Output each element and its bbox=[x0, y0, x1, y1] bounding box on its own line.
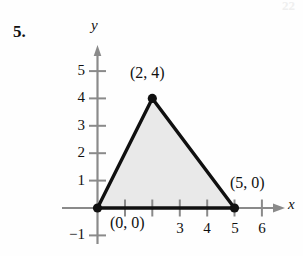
vertex-dot-origin bbox=[93, 203, 102, 212]
y-tick-label-1: 1 bbox=[63, 172, 85, 189]
vertex-dot-right bbox=[230, 203, 239, 212]
x-tick-label-6: 6 bbox=[254, 220, 270, 237]
y-axis bbox=[94, 45, 102, 244]
coordinate-plane-figure: y x 5 4 3 2 1 −1 3 4 5 6 (2, 4) (0, 0) (… bbox=[0, 0, 303, 256]
vertex-label-apex: (2, 4) bbox=[130, 64, 165, 82]
x-tick-label-3: 3 bbox=[172, 220, 188, 237]
y-tick-label-5: 5 bbox=[63, 62, 85, 79]
y-tick-label-3: 3 bbox=[63, 117, 85, 134]
x-tick-label-5: 5 bbox=[227, 220, 243, 237]
y-axis-label: y bbox=[91, 17, 98, 34]
vertex-label-right: (5, 0) bbox=[230, 174, 265, 192]
y-tick-label-2: 2 bbox=[63, 144, 85, 161]
x-tick-label-4: 4 bbox=[199, 220, 215, 237]
figure-page: 22 5. bbox=[0, 0, 303, 256]
vertex-dot-apex bbox=[148, 94, 157, 103]
y-tick-label-4: 4 bbox=[63, 89, 85, 106]
y-tick-label-neg1: −1 bbox=[51, 226, 85, 243]
x-axis-label: x bbox=[288, 196, 295, 213]
vertex-label-origin: (0, 0) bbox=[110, 214, 145, 232]
plot-canvas bbox=[0, 0, 303, 256]
